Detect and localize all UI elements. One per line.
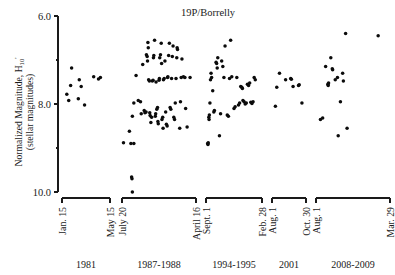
data-point xyxy=(139,100,143,104)
x-axis-start-label: Aug. 1 xyxy=(267,207,278,234)
data-point xyxy=(218,134,222,138)
data-point xyxy=(223,44,227,48)
data-point xyxy=(131,115,135,119)
data-point xyxy=(157,122,161,126)
x-axis-start-label: July 20 xyxy=(117,207,128,236)
x-axis-group-label: 1981 xyxy=(76,259,96,270)
data-point xyxy=(99,76,103,80)
data-point xyxy=(331,68,335,72)
data-point xyxy=(235,76,239,80)
data-point xyxy=(274,104,278,108)
data-point xyxy=(167,54,171,58)
data-point xyxy=(158,77,162,81)
data-point xyxy=(166,75,170,79)
data-point xyxy=(79,85,83,89)
data-point xyxy=(146,59,150,63)
data-point xyxy=(170,77,174,81)
data-point xyxy=(130,177,134,181)
data-point xyxy=(139,112,143,116)
data-point xyxy=(168,42,172,46)
data-point xyxy=(278,71,282,75)
data-point xyxy=(180,57,184,61)
data-point xyxy=(220,59,224,63)
data-point xyxy=(300,101,304,105)
data-point xyxy=(156,106,160,110)
data-point xyxy=(147,46,151,50)
data-point xyxy=(210,76,214,80)
data-point xyxy=(219,112,223,116)
data-point xyxy=(188,76,192,80)
data-point xyxy=(336,76,340,80)
data-point xyxy=(229,38,233,42)
x-axis-group-label: 2008-2009 xyxy=(331,259,374,270)
data-point xyxy=(284,78,288,82)
chart-title: 19P/Borrelly xyxy=(181,7,236,18)
data-point xyxy=(345,126,349,130)
x-axis-group-label: 1994-1995 xyxy=(212,259,255,270)
data-point xyxy=(290,78,294,82)
data-point xyxy=(67,99,71,103)
data-point xyxy=(83,103,87,107)
data-point xyxy=(162,77,166,81)
data-point xyxy=(131,190,135,194)
x-axis-group-label: 1987-1988 xyxy=(137,259,180,270)
data-point xyxy=(159,53,163,57)
data-point xyxy=(222,76,226,80)
data-point xyxy=(179,100,183,104)
data-point xyxy=(65,93,69,97)
data-point xyxy=(78,78,82,82)
data-point xyxy=(150,115,154,119)
data-point xyxy=(69,84,73,88)
data-point xyxy=(134,74,138,78)
data-point xyxy=(153,38,157,42)
data-point xyxy=(176,48,180,52)
data-point xyxy=(173,118,177,122)
data-point xyxy=(158,56,162,60)
data-point xyxy=(376,34,380,38)
data-point xyxy=(275,86,279,90)
data-point xyxy=(175,56,179,60)
x-axis-group-label: 2001 xyxy=(279,259,299,270)
data-point xyxy=(245,101,249,105)
data-point xyxy=(216,56,220,60)
data-point xyxy=(160,62,164,66)
data-point xyxy=(174,101,178,105)
data-point xyxy=(151,78,155,82)
data-point xyxy=(171,44,175,48)
data-point xyxy=(174,77,178,81)
data-point xyxy=(238,101,242,105)
data-point xyxy=(324,65,328,69)
y-axis-tick-label: 8.0 xyxy=(38,99,51,110)
data-point xyxy=(161,115,165,119)
data-point xyxy=(215,62,219,66)
data-point xyxy=(227,115,231,119)
data-point xyxy=(208,101,212,105)
data-point xyxy=(169,108,173,112)
data-point xyxy=(241,87,245,91)
data-point xyxy=(339,100,343,104)
data-point xyxy=(149,121,153,125)
data-point xyxy=(215,66,219,70)
y-axis-title-line2: (stellar magnitudes) xyxy=(24,74,36,150)
svg-text:May 15: May 15 xyxy=(105,207,116,237)
x-axis-start-label: Sept. 1 xyxy=(201,207,212,234)
data-point xyxy=(297,83,301,87)
svg-text:Aug. 1: Aug. 1 xyxy=(311,207,322,234)
data-point xyxy=(211,89,215,93)
data-point xyxy=(159,42,163,46)
data-point xyxy=(152,54,156,58)
data-point xyxy=(342,79,346,83)
chart-figure: 19P/Borrelly6.08.010.0Normalized Magnitu… xyxy=(0,0,395,275)
data-point xyxy=(77,97,81,101)
data-point xyxy=(341,71,345,75)
data-point xyxy=(213,109,217,113)
data-point xyxy=(344,32,348,36)
data-point xyxy=(70,66,74,70)
data-point xyxy=(146,41,150,45)
data-point xyxy=(329,56,333,60)
data-point xyxy=(132,142,136,146)
data-point xyxy=(209,71,213,75)
x-axis-start-label: Aug. 1 xyxy=(311,207,322,234)
data-point xyxy=(254,78,258,82)
svg-text:Sept. 1: Sept. 1 xyxy=(201,207,212,234)
